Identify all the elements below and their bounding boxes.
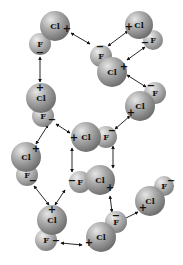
dipole-interaction-arrow xyxy=(71,33,90,44)
partial-positive-charge: + xyxy=(139,203,147,213)
partial-negative-charge: − xyxy=(48,115,56,125)
partial-negative-charge: − xyxy=(68,176,76,186)
partial-positive-charge: + xyxy=(48,205,56,215)
partial-positive-charge: + xyxy=(63,24,71,34)
molecule-canvas xyxy=(0,0,183,265)
dipole-interaction-arrow xyxy=(56,124,70,133)
partial-negative-charge: − xyxy=(167,176,175,186)
dipole-interaction-arrow xyxy=(55,190,65,205)
partial-negative-charge: − xyxy=(96,42,104,52)
partial-positive-charge: + xyxy=(36,83,44,93)
dipole-interaction-arrow xyxy=(108,31,128,46)
partial-negative-charge: − xyxy=(108,126,116,136)
partial-negative-charge: − xyxy=(112,211,120,221)
partial-positive-charge: + xyxy=(32,144,40,154)
dipole-interaction-arrow xyxy=(127,75,146,87)
partial-positive-charge: + xyxy=(85,238,93,248)
partial-negative-charge: − xyxy=(36,48,44,58)
partial-negative-charge: − xyxy=(52,236,60,246)
partial-negative-charge: − xyxy=(29,176,37,186)
partial-positive-charge: + xyxy=(125,22,133,32)
partial-positive-charge: + xyxy=(106,183,114,193)
partial-positive-charge: + xyxy=(70,133,78,143)
dipole-interaction-arrow xyxy=(61,243,82,245)
dipole-interaction-arrow xyxy=(36,125,48,144)
dipole-interaction-arrow xyxy=(127,47,145,60)
dipole-interaction-arrow xyxy=(34,186,49,205)
partial-positive-charge: + xyxy=(120,62,128,72)
dipole-dipole-diagram: F−Cl+F−Cl+F−Cl+F−Cl+F−Cl+F−Cl+F−Cl+F−Cl+… xyxy=(0,0,183,265)
partial-negative-charge: − xyxy=(147,81,155,91)
partial-negative-charge: − xyxy=(141,38,149,48)
partial-positive-charge: + xyxy=(127,108,135,118)
